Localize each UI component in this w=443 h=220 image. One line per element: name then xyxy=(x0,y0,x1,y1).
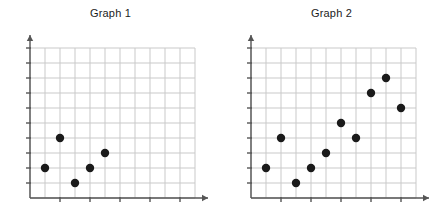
graph-2-point-5 xyxy=(322,149,330,157)
graph-1-point-5 xyxy=(101,149,109,157)
graph-1-point-4 xyxy=(86,164,94,172)
graph-2-point-3 xyxy=(292,179,300,187)
graph-panel-2: Graph 2 xyxy=(221,0,442,220)
graph-1-gridlines xyxy=(30,48,195,198)
graph-1-y-axis-arrow-icon xyxy=(27,35,33,41)
graph-2-plot-area xyxy=(221,26,442,220)
graph-1-title: Graph 1 xyxy=(0,7,221,19)
graph-2-gridlines xyxy=(251,48,416,198)
graph-2-point-2 xyxy=(277,134,285,142)
graph-1-axes xyxy=(26,35,208,202)
graph-2-point-9 xyxy=(382,74,390,82)
graph-1-point-3 xyxy=(71,179,79,187)
graph-1-x-axis-arrow-icon xyxy=(202,195,208,201)
graph-2-point-10 xyxy=(397,104,405,112)
graph-2-title: Graph 2 xyxy=(221,7,442,19)
graph-1-svg xyxy=(0,26,221,216)
graph-2-data-points xyxy=(262,74,405,187)
graph-2-svg xyxy=(221,26,442,216)
graph-1-point-2 xyxy=(56,134,64,142)
graph-2-axes xyxy=(247,35,429,202)
graph-1-point-1 xyxy=(41,164,49,172)
graph-2-y-axis-arrow-icon xyxy=(248,35,254,41)
scatter-plot-comparison-figure: Graph 1 Graph 2 xyxy=(0,0,443,220)
graph-2-point-6 xyxy=(337,119,345,127)
graph-panel-1: Graph 1 xyxy=(0,0,221,220)
graph-2-point-4 xyxy=(307,164,315,172)
graph-2-point-8 xyxy=(367,89,375,97)
graph-1-plot-area xyxy=(0,26,221,220)
graph-2-point-7 xyxy=(352,134,360,142)
graph-2-x-axis-arrow-icon xyxy=(423,195,429,201)
graph-2-point-1 xyxy=(262,164,270,172)
